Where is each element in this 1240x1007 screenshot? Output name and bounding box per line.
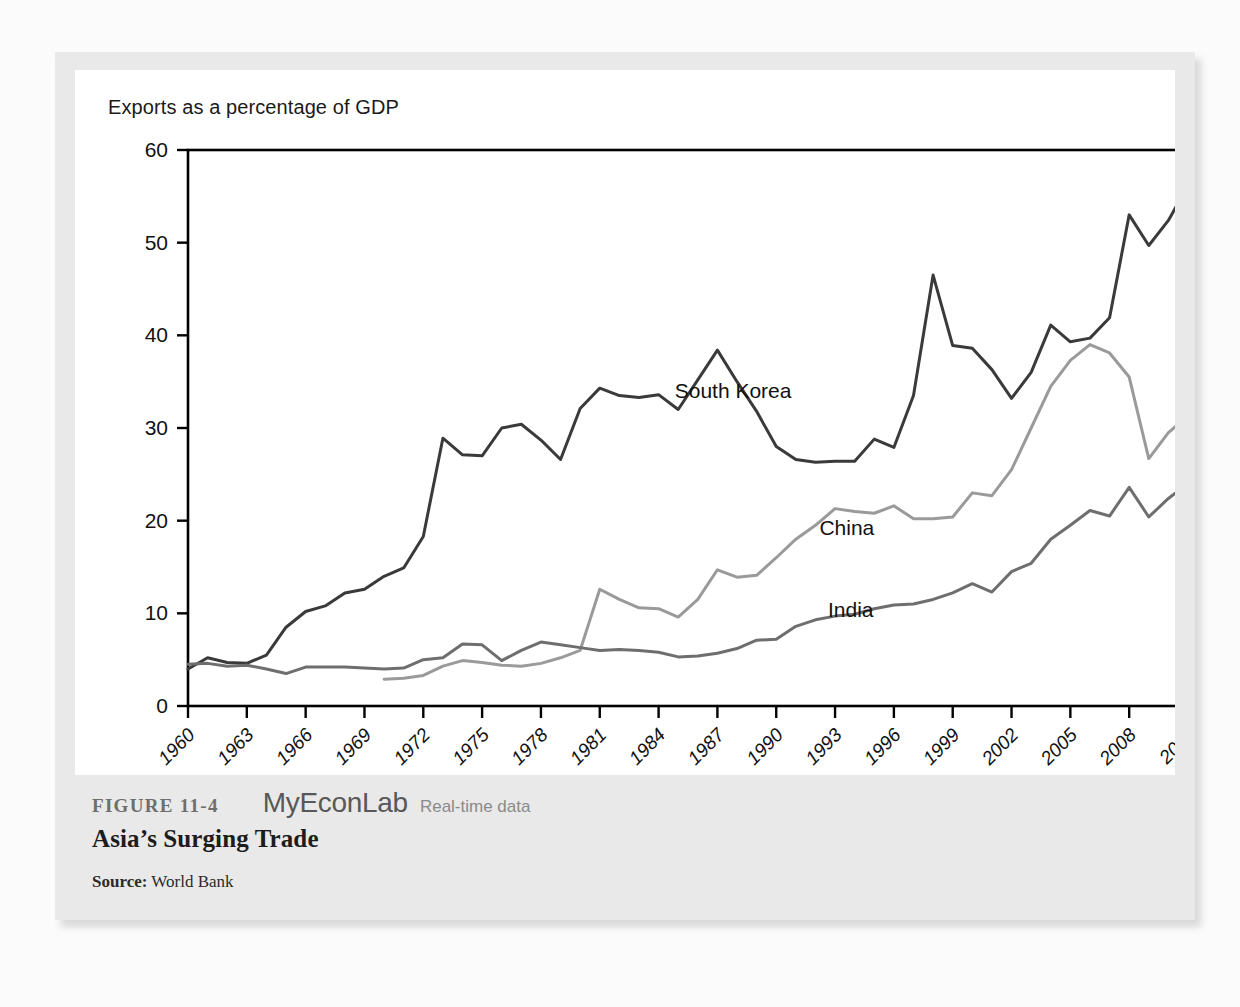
figure-source: Source: World Bank <box>92 872 234 892</box>
myeconlab-logo: MyEconLab <box>263 787 408 819</box>
figure-panel: Exports as a percentage of GDP 010203040… <box>55 52 1195 920</box>
series-label-china: China <box>819 516 874 539</box>
x-tick-label: 1978 <box>507 724 552 769</box>
line-chart: 0102030405060 19601963196619691972197519… <box>75 70 1175 775</box>
x-tick-label: 1993 <box>801 724 846 769</box>
chart-card: Exports as a percentage of GDP 010203040… <box>75 70 1175 775</box>
x-axis-ticks: 1960196319661969197219751978198119841987… <box>154 706 1175 769</box>
figure-number: FIGURE 11-4 <box>92 795 219 817</box>
figure-footer-top-line: FIGURE 11-4 MyEconLab Real-time data <box>92 787 530 819</box>
y-axis-ticks: 0102030405060 <box>145 138 188 717</box>
x-tick-label: 2005 <box>1036 724 1082 770</box>
x-tick-label: 1975 <box>448 724 493 769</box>
chart-axes <box>188 150 1175 706</box>
series-label-india: India <box>828 598 874 621</box>
x-tick-label: 1981 <box>566 724 611 769</box>
x-tick-label: 2002 <box>977 724 1023 770</box>
y-tick-label: 20 <box>145 509 168 532</box>
y-tick-label: 0 <box>156 694 168 717</box>
y-tick-label: 50 <box>145 231 168 254</box>
series-labels-group: South KoreaChinaIndia <box>675 379 875 621</box>
x-tick-label: 1966 <box>272 724 317 769</box>
chart-series-group <box>188 185 1175 679</box>
y-tick-label: 30 <box>145 416 168 439</box>
y-tick-label: 10 <box>145 601 168 624</box>
page-background: Exports as a percentage of GDP 010203040… <box>0 0 1240 1007</box>
x-tick-label: 1990 <box>742 724 787 769</box>
series-line-south-korea <box>188 185 1175 669</box>
figure-source-label: Source: <box>92 872 147 891</box>
x-tick-label: 2008 <box>1095 724 1141 770</box>
x-tick-label: 1969 <box>331 724 376 769</box>
myeconlab-tagline: Real-time data <box>420 797 531 817</box>
x-tick-label: 1996 <box>860 724 905 769</box>
y-tick-label: 40 <box>145 323 168 346</box>
x-tick-label: 1963 <box>213 724 258 769</box>
figure-title: Asia’s Surging Trade <box>92 825 319 853</box>
x-tick-label: 1999 <box>919 724 964 769</box>
series-line-india <box>188 484 1175 674</box>
figure-footer: FIGURE 11-4 MyEconLab Real-time data Asi… <box>75 787 1175 917</box>
x-tick-label: 1984 <box>625 724 670 769</box>
x-tick-label: 1972 <box>389 724 434 769</box>
x-tick-label: 1987 <box>683 723 729 769</box>
series-label-south-korea: South Korea <box>675 379 792 402</box>
x-tick-label: 2011 <box>1154 724 1175 768</box>
y-tick-label: 60 <box>145 138 168 161</box>
x-tick-label: 1960 <box>154 724 199 769</box>
figure-source-value: World Bank <box>151 872 233 891</box>
